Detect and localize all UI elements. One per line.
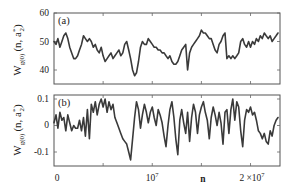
xtick-base: 2 ×10 bbox=[239, 173, 261, 183]
panel-a-label: (a) bbox=[58, 15, 70, 27]
panel-b: (b) -0.1 0 0.1 Wg(0)(n, a*2) 0 107 2 ×10… bbox=[11, 94, 280, 184]
panel-a-frame bbox=[54, 13, 280, 84]
xtick-base: 10 bbox=[146, 173, 156, 183]
ylabel-close: ) bbox=[11, 104, 24, 108]
ylabel-sub: g(0) bbox=[18, 53, 26, 65]
panel-b-ytick-label: -0.1 bbox=[34, 147, 49, 157]
panel-b-ytick-label: 0 bbox=[44, 120, 49, 130]
xtick-label: 2 ×107 bbox=[239, 171, 265, 183]
ylabel-sub: g(0) bbox=[18, 133, 26, 145]
panel-a-ylabel: Wg(0)(n, a*2) bbox=[11, 24, 26, 76]
panel-b-series-line bbox=[54, 99, 278, 160]
panel-b-label: (b) bbox=[58, 97, 71, 109]
panel-a-ticks bbox=[54, 13, 280, 84]
panel-a-ytick-label: 60 bbox=[40, 8, 50, 18]
xtick-exp: 7 bbox=[155, 171, 159, 178]
panel-b-ylabel: Wg(0)(n, a*2) bbox=[11, 104, 26, 156]
panel-a-ytick-label: 50 bbox=[40, 37, 50, 47]
svg-text:Wg(0)(n, a*2): Wg(0)(n, a*2) bbox=[11, 104, 26, 156]
xtick-exp: 7 bbox=[261, 171, 265, 178]
panel-a-series-line bbox=[54, 30, 278, 76]
panel-b-ytick-label: 0.1 bbox=[37, 94, 49, 104]
ylabel-close: ) bbox=[11, 24, 24, 28]
ylabel-main: W bbox=[11, 65, 23, 76]
panel-a: (a) 40 50 60 Wg(0)(n, a*2) bbox=[11, 8, 280, 84]
ylabel-args: (n, a bbox=[11, 32, 24, 52]
xaxis-title: n bbox=[200, 174, 206, 184]
xtick-label: 107 bbox=[146, 171, 160, 183]
ylabel-main: W bbox=[11, 145, 23, 156]
panel-a-ytick-label: 40 bbox=[40, 65, 50, 75]
chart-figure: (a) 40 50 60 Wg(0)(n, a*2) (b) -0.1 0 0.… bbox=[0, 0, 292, 190]
svg-text:Wg(0)(n, a*2): Wg(0)(n, a*2) bbox=[11, 24, 26, 76]
ylabel-args: (n, a bbox=[11, 112, 24, 132]
xtick-label: 0 bbox=[55, 173, 60, 183]
